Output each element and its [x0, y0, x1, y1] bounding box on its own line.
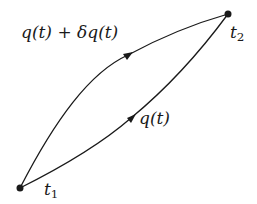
varied-path-label: q(t) + δq(t) [21, 24, 118, 41]
arrow-icon-upper [123, 52, 133, 60]
t1-base: t [44, 179, 51, 199]
arrow-icon-lower [127, 114, 136, 123]
t1-label: t1 [44, 181, 58, 201]
t1-subscript: 1 [51, 187, 59, 201]
endpoint-t2-dot [225, 11, 232, 18]
t2-subscript: 2 [237, 30, 245, 44]
endpoint-t1-dot [17, 185, 24, 192]
true-path-label: q(t) [139, 110, 170, 127]
t2-label: t2 [230, 24, 244, 44]
t2-base: t [230, 22, 237, 42]
